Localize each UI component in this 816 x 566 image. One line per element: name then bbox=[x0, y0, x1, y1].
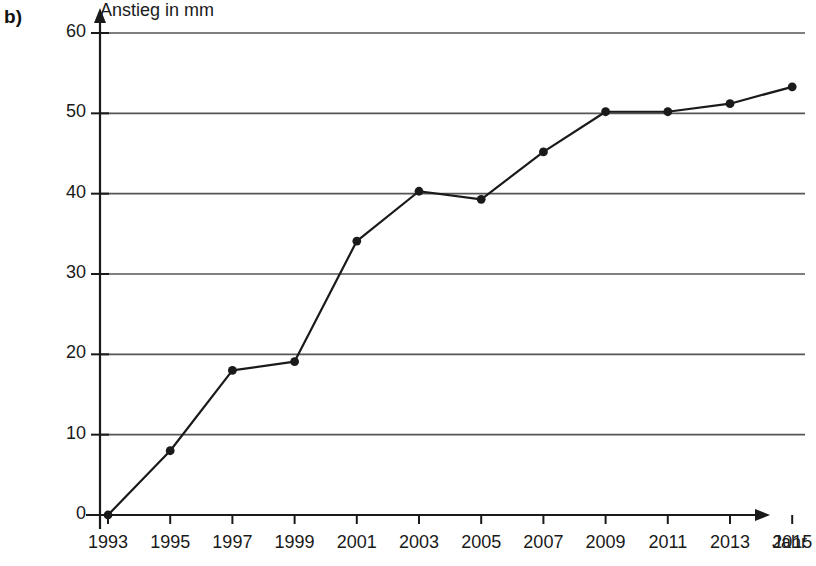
data-point-marker bbox=[166, 446, 175, 455]
x-tick-label: 2013 bbox=[695, 532, 765, 553]
data-point-marker bbox=[726, 99, 735, 108]
data-point-marker bbox=[788, 82, 797, 91]
data-point-marker bbox=[539, 147, 548, 156]
y-tick-label: 10 bbox=[34, 423, 86, 444]
x-tick-label: 2011 bbox=[633, 532, 703, 553]
x-tick-label: 1995 bbox=[135, 532, 205, 553]
x-tick-label: 2003 bbox=[384, 532, 454, 553]
chart-figure: b) Anstieg in mm Jahr 0102030405060 1993… bbox=[0, 0, 816, 566]
data-point-marker bbox=[228, 366, 237, 375]
x-tick-marks-group bbox=[108, 515, 792, 524]
data-point-marker bbox=[477, 195, 486, 204]
data-point-marker bbox=[415, 187, 424, 196]
y-tick-label: 60 bbox=[34, 21, 86, 42]
y-tick-label: 50 bbox=[34, 101, 86, 122]
data-point-marker bbox=[663, 107, 672, 116]
axes-group bbox=[86, 8, 770, 529]
x-tick-label: 2005 bbox=[446, 532, 516, 553]
data-line bbox=[108, 87, 792, 515]
x-tick-label: 1993 bbox=[73, 532, 143, 553]
data-point-marker bbox=[352, 237, 361, 246]
x-tick-label: 1997 bbox=[197, 532, 267, 553]
y-tick-label: 40 bbox=[34, 182, 86, 203]
line-chart-plot bbox=[0, 0, 816, 566]
data-point-markers-group bbox=[104, 82, 797, 519]
y-tick-label: 30 bbox=[34, 262, 86, 283]
y-tick-label: 20 bbox=[34, 342, 86, 363]
gridlines-group bbox=[100, 33, 805, 435]
data-point-marker bbox=[601, 107, 610, 116]
x-tick-label: 2015 bbox=[757, 532, 816, 553]
data-point-marker bbox=[104, 511, 113, 520]
x-tick-label: 2009 bbox=[571, 532, 641, 553]
y-axis-arrowhead bbox=[94, 8, 106, 23]
x-tick-label: 1999 bbox=[260, 532, 330, 553]
y-tick-label: 0 bbox=[34, 503, 86, 524]
x-axis-arrowhead bbox=[755, 509, 770, 521]
x-tick-label: 2001 bbox=[322, 532, 392, 553]
x-tick-label: 2007 bbox=[508, 532, 578, 553]
data-line-group bbox=[108, 87, 792, 515]
data-point-marker bbox=[290, 357, 299, 366]
